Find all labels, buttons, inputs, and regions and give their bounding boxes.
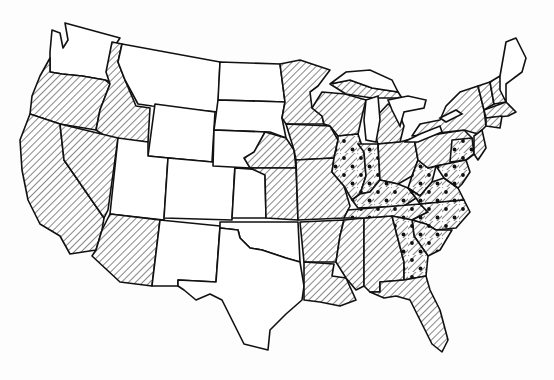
- state-north-dakota: [218, 62, 285, 102]
- state-florida: [370, 276, 448, 352]
- state-kansas-west: [232, 168, 266, 218]
- state-new-jersey: [474, 130, 486, 160]
- state-connecticut: [486, 116, 502, 128]
- map-svg: [0, 0, 554, 380]
- us-map: [0, 0, 554, 380]
- state-wyoming: [148, 104, 215, 162]
- state-new-york: [412, 86, 486, 136]
- state-pennsylvania-east-dotted: [450, 138, 474, 162]
- lake-michigan: [364, 96, 380, 142]
- state-new-mexico: [152, 220, 220, 286]
- state-maine: [500, 38, 526, 102]
